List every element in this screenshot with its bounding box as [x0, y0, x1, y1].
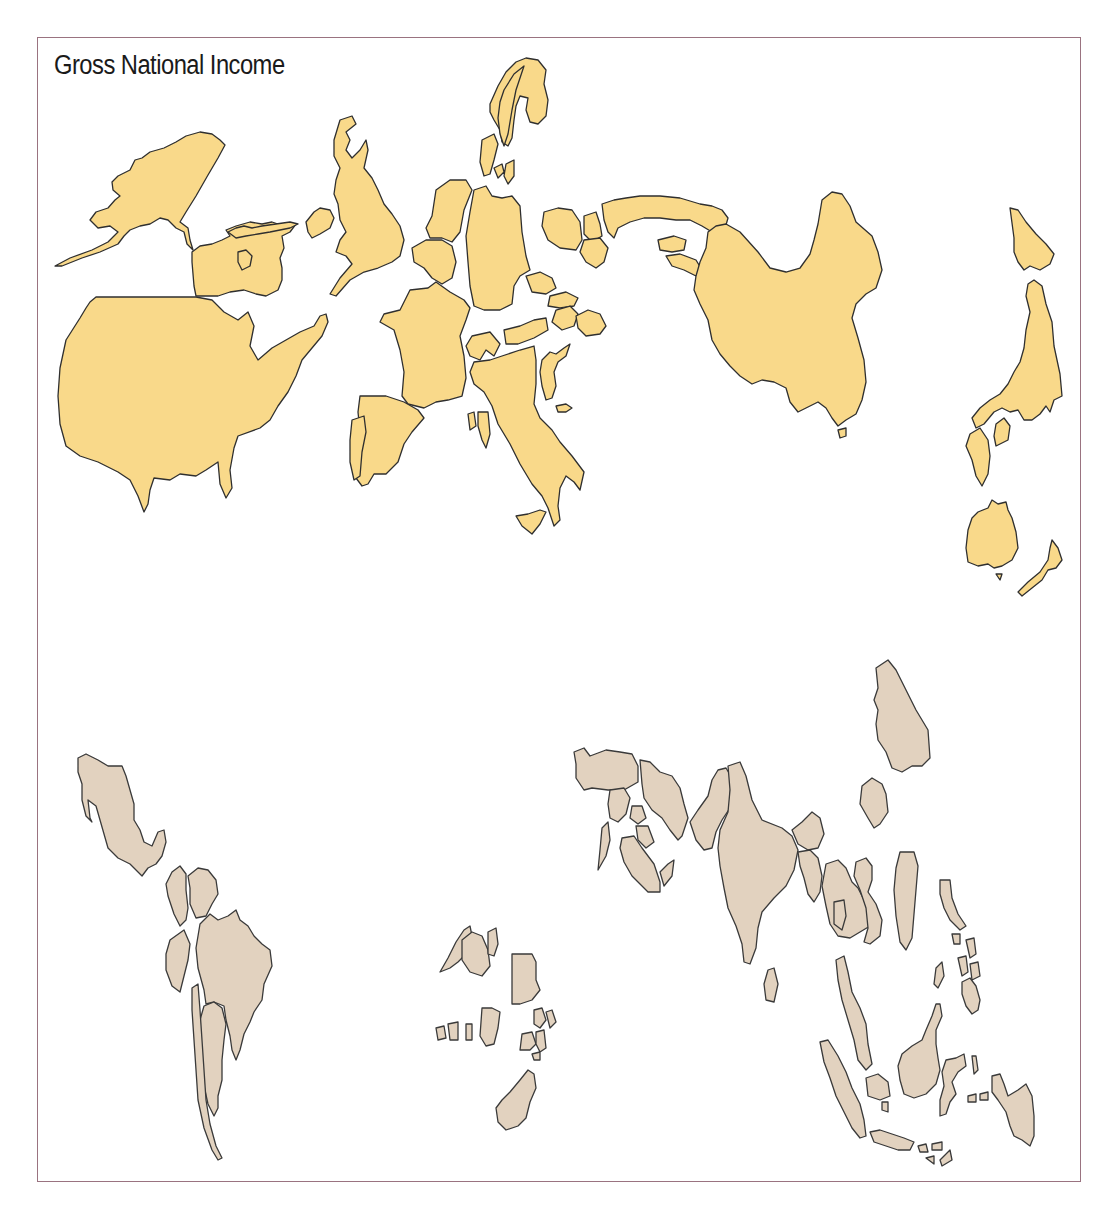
region-switzerland[interactable] [466, 332, 500, 360]
region-halmahera [972, 1056, 978, 1074]
region-sicily [516, 510, 546, 534]
region-yemen-oman [660, 860, 674, 886]
region-japan-honshu[interactable] [972, 280, 1062, 428]
region-bangka [882, 1102, 888, 1112]
region-australia[interactable] [966, 500, 1018, 568]
region-congo [520, 1032, 536, 1050]
region-corsica [468, 412, 476, 430]
region-nigeria[interactable] [512, 954, 540, 1004]
region-mexico[interactable] [78, 754, 166, 876]
region-ireland[interactable] [306, 208, 334, 238]
region-turkey[interactable] [574, 748, 638, 790]
region-japan-shikoku [994, 418, 1010, 446]
region-borneo[interactable] [898, 1004, 942, 1098]
region-crete [556, 404, 572, 412]
region-slovenia [504, 318, 548, 344]
region-sardinia [478, 412, 490, 448]
region-japan-hokkaido[interactable] [1010, 208, 1054, 270]
region-taiwan [838, 428, 846, 438]
region-netherlands[interactable] [426, 180, 472, 242]
region-south-africa[interactable] [496, 1070, 536, 1130]
region-taiwan-low[interactable] [860, 778, 888, 828]
region-korea[interactable] [658, 236, 702, 276]
region-philippines-small-2 [966, 938, 976, 958]
region-lesser-sunda [918, 1142, 952, 1166]
region-sulawesi[interactable] [940, 1054, 966, 1116]
region-belarus [580, 238, 608, 268]
region-peru[interactable] [166, 930, 190, 992]
region-syria-iraq[interactable] [608, 788, 630, 822]
region-malaysia-peninsula[interactable] [836, 956, 872, 1070]
region-philippines-mindanao[interactable] [962, 978, 980, 1014]
region-hungary[interactable] [552, 306, 578, 330]
region-united-kingdom[interactable] [330, 116, 404, 296]
region-west-africa-2 [448, 1022, 458, 1040]
region-france[interactable] [380, 282, 470, 408]
region-japan-kyushu [966, 428, 990, 486]
region-denmark-island [494, 160, 514, 184]
region-czechia[interactable] [526, 272, 556, 294]
region-philippines-small-1 [952, 934, 960, 944]
region-tasmania [996, 574, 1002, 580]
region-philippines-luzon[interactable] [894, 852, 918, 950]
region-java[interactable] [870, 1130, 914, 1150]
region-bangladesh[interactable] [792, 812, 824, 850]
low-income-group [78, 660, 1034, 1166]
region-israel [598, 822, 610, 870]
region-romania[interactable] [576, 310, 606, 336]
region-east-africa-2 [546, 1010, 556, 1028]
region-moluccas [968, 1092, 988, 1102]
region-china[interactable] [694, 192, 882, 426]
region-germany[interactable] [466, 186, 530, 310]
region-sri-lanka[interactable] [764, 968, 778, 1002]
region-philippines-small-4 [970, 962, 980, 980]
region-west-africa-3 [466, 1024, 472, 1040]
region-austria[interactable] [548, 292, 578, 308]
cartogram-map [0, 0, 1114, 1210]
region-central-africa[interactable] [480, 1008, 500, 1046]
region-east-africa-1 [534, 1008, 546, 1028]
region-philippines-islands[interactable] [940, 880, 966, 930]
region-singapore [866, 1074, 890, 1100]
region-sudan[interactable] [488, 928, 498, 956]
high-income-group [55, 58, 1062, 596]
region-india[interactable] [718, 762, 798, 964]
region-west-africa-1 [436, 1026, 446, 1040]
region-colombia-venezuela[interactable] [188, 868, 218, 918]
region-new-zealand[interactable] [1018, 540, 1062, 596]
region-egypt-libya[interactable] [462, 932, 490, 976]
region-south-korea[interactable] [874, 660, 930, 772]
region-myanmar[interactable] [798, 850, 822, 902]
region-philippines-small-3 [958, 956, 968, 976]
region-new-guinea[interactable] [992, 1074, 1034, 1146]
region-jordan [630, 806, 646, 824]
region-belgium[interactable] [412, 240, 456, 284]
region-poland[interactable] [542, 208, 582, 250]
region-philippines-palawan [934, 962, 944, 988]
region-central-america[interactable] [166, 866, 188, 926]
region-greece[interactable] [540, 344, 570, 400]
region-saudi-arabia[interactable] [620, 836, 660, 892]
region-spain[interactable] [356, 396, 424, 486]
region-united-states[interactable] [58, 297, 328, 512]
